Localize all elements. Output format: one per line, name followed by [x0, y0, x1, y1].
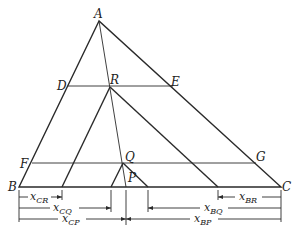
label-q: Q — [125, 150, 135, 164]
label-f: F — [19, 157, 29, 171]
triangle-abc — [19, 21, 281, 187]
label-g: G — [256, 150, 266, 164]
label-x-cr: xCR — [30, 190, 48, 205]
label-d: D — [56, 79, 67, 93]
label-a: A — [93, 7, 103, 21]
label-e: E — [170, 75, 180, 89]
label-c: C — [282, 180, 291, 194]
label-b: B — [7, 180, 17, 194]
line-q-left — [111, 163, 123, 187]
line-r-left — [62, 87, 110, 187]
label-x-bq: xBQ — [204, 201, 223, 216]
label-x-br: xBR — [239, 190, 257, 205]
line-ap — [99, 21, 126, 187]
label-r: R — [109, 73, 119, 87]
triangle-diagram: A D R E F Q G B P C xCR xCQ xCP xBR xBQ … — [0, 0, 297, 237]
label-p: P — [127, 171, 137, 185]
line-r-right — [110, 87, 218, 187]
